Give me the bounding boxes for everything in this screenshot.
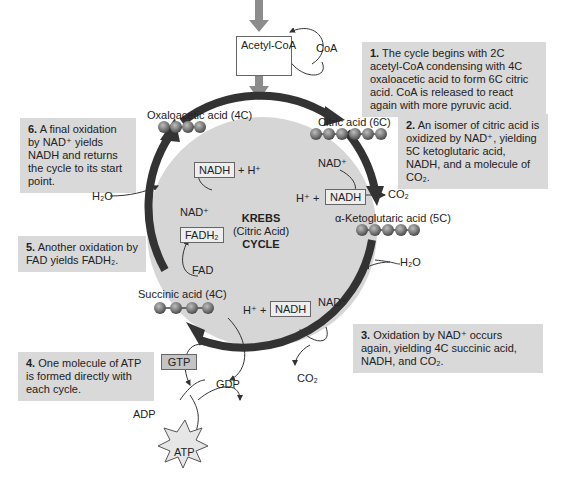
note-3-number: 3. xyxy=(361,329,370,341)
fadh2-box: FADH₂ xyxy=(180,227,224,243)
title-line-krebs: KREBS xyxy=(225,212,297,225)
note-6-text: A final oxidation by NAD⁺ yields NADH an… xyxy=(28,123,122,187)
h-plus-step3: H⁺ + xyxy=(243,304,266,317)
note-3-text: Oxidation by NAD⁺ occurs again, yielding… xyxy=(361,329,517,367)
nadh-box-step3: NADH xyxy=(270,301,311,317)
note-6: 6. A final oxidation by NAD⁺ yields NADH… xyxy=(20,118,136,193)
title-line-cycle: CYCLE xyxy=(225,238,297,251)
nadh-box-step6: NADH xyxy=(194,162,235,178)
note-3: 3. Oxidation by NAD⁺ occurs again, yield… xyxy=(353,324,543,373)
note-4: 4. One molecule of ATP is formed directl… xyxy=(18,352,154,401)
note-1-text: The cycle begins with 2C acetyl-CoA cond… xyxy=(370,47,528,111)
adp-label: ADP xyxy=(133,408,156,420)
note-4-number: 4. xyxy=(26,357,35,369)
note-5-number: 5. xyxy=(26,241,35,253)
gdp-label: GDP xyxy=(216,378,240,390)
oxaloacetic-label: Oxaloacetic acid (4C) xyxy=(147,109,252,121)
ketoglutaric-beads xyxy=(356,224,420,236)
note-2-number: 2. xyxy=(406,119,415,131)
cycle-title: KREBS (Citric Acid) CYCLE xyxy=(225,212,297,251)
coa-label: CoA xyxy=(316,42,337,54)
nad-plus-step2: NAD⁺ xyxy=(318,157,347,170)
plus-h-step6: + H⁺ xyxy=(238,164,261,177)
note-1: 1. The cycle begins with 2C acetyl-CoA c… xyxy=(362,42,546,117)
nad-plus-step6: NAD⁺ xyxy=(180,206,209,219)
note-5-text: Another oxidation by FAD yields FADH₂. xyxy=(26,241,138,266)
succinic-label: Succinic acid (4C) xyxy=(138,288,227,300)
citric-label: Citric acid (6C) xyxy=(318,116,391,128)
co2-step2: CO₂ xyxy=(388,188,409,200)
note-5: 5. Another oxidation by FAD yields FADH₂… xyxy=(18,236,146,272)
gtp-box: GTP xyxy=(161,354,197,370)
note-2: 2. An isomer of citric acid is oxidized … xyxy=(398,114,548,189)
nad-plus-step3: NAD⁺ xyxy=(318,296,347,309)
fad-label: FAD xyxy=(192,264,213,276)
h-plus-step2: H⁺ + xyxy=(296,192,319,205)
co2-step3: CO₂ xyxy=(297,372,318,384)
ketoglutaric-label: α-Ketoglutaric acid (5C) xyxy=(335,212,451,224)
h2o-step3: H₂O xyxy=(400,256,421,268)
note-6-number: 6. xyxy=(28,123,37,135)
h2o-step6: H₂O xyxy=(92,190,113,202)
oxaloacetic-beads xyxy=(158,121,206,133)
atp-starburst xyxy=(158,420,208,468)
atp-label: ATP xyxy=(174,446,195,458)
note-4-text: One molecule of ATP is formed directly w… xyxy=(26,357,141,395)
nadh-box-step2: NADH xyxy=(325,189,366,205)
note-1-number: 1. xyxy=(370,47,379,59)
title-line-citric: (Citric Acid) xyxy=(225,225,297,238)
acetyl-coa-box: Acetyl-CoA xyxy=(236,36,292,76)
note-2-text: An isomer of citric acid is oxidized by … xyxy=(406,119,539,183)
acetyl-coa-label: Acetyl-CoA xyxy=(241,39,296,51)
